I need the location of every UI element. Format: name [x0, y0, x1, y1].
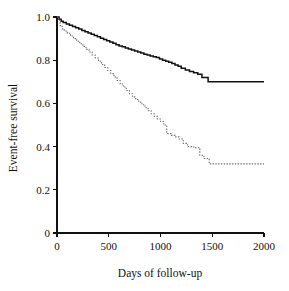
x-tick-label: 1000 — [150, 240, 173, 252]
axes-group — [57, 17, 264, 233]
x-tick-label: 0 — [54, 240, 60, 252]
y-axis-ticks: 00.20.40.60.81.0 — [36, 11, 57, 239]
x-axis-label: Days of follow-up — [118, 267, 203, 280]
y-tick-label: 0.4 — [36, 141, 50, 153]
survival-plot: 00.20.40.60.81.0 0500100015002000 Days o… — [0, 0, 289, 291]
x-tick-label: 1500 — [201, 240, 224, 252]
lower-survival-curve — [57, 17, 264, 164]
upper-survival-curve — [57, 17, 264, 82]
x-tick-label: 500 — [101, 240, 118, 252]
y-tick-label: 0.8 — [36, 54, 50, 66]
x-tick-label: 2000 — [253, 240, 276, 252]
y-tick-label: 0.6 — [36, 97, 50, 109]
y-tick-label: 0 — [45, 227, 51, 239]
y-tick-label: 1.0 — [36, 11, 50, 23]
y-axis-label: Event-free survival — [7, 84, 19, 172]
x-axis-ticks: 0500100015002000 — [54, 233, 275, 252]
y-tick-label: 0.2 — [36, 184, 50, 196]
kaplan-meier-figure: 00.20.40.60.81.0 0500100015002000 Days o… — [0, 0, 289, 291]
